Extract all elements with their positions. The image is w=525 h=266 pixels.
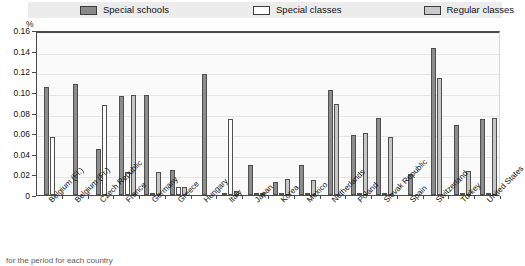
x-axis-tick-mark [474,196,475,199]
x-axis-tick-mark [268,196,269,199]
x-axis-tick-mark [242,196,243,199]
bar-group [321,33,347,195]
x-axis-tick-mark [371,196,372,199]
x-axis-tick-mark [294,196,295,199]
bar [202,74,207,195]
legend-label-special-schools: Special schools [103,5,169,15]
x-axis-tick-mark [448,196,449,199]
bar-group [217,33,243,195]
bar [431,48,436,195]
bar [44,87,49,195]
y-axis-tick-label: 0.04 [0,150,30,160]
x-axis-tick-mark [88,196,89,199]
y-axis-tick-label: 0.10 [0,88,30,98]
x-axis-tick-mark [139,196,140,199]
bar [437,78,442,195]
bar-group [424,33,450,195]
x-axis-tick-mark [62,196,63,199]
legend-item-special-schools: Special schools [80,5,169,15]
x-axis-tick-mark [216,196,217,199]
figure-caption: for the period for each country [6,256,476,266]
legend-label-special-classes: Special classes [276,5,341,15]
x-axis-tick-mark [191,196,192,199]
y-axis-tick-label: 0.16 [0,26,30,36]
y-axis-tick-label: 0.08 [0,109,30,119]
bar [299,165,304,195]
x-axis-tick-mark [345,196,346,199]
y-axis-tick-label: 0.12 [0,67,30,77]
legend-swatch-special-classes [253,6,270,15]
bar [328,90,333,195]
legend-swatch-regular-classes [424,6,441,15]
chart-legend: Special schools Special classes Regular … [28,2,502,18]
x-axis-tick-mark [423,196,424,199]
x-axis-tick-mark [397,196,398,199]
legend-item-regular-classes: Regular classes [424,5,515,15]
bar-group [475,33,501,195]
bar [222,193,227,195]
bar-group [166,33,192,195]
y-axis-tick-label: 0.06 [0,129,30,139]
bar [480,119,485,195]
bar-group [192,33,218,195]
bar-group [140,33,166,195]
y-axis-tick-label: 0.14 [0,47,30,57]
x-axis-tick-mark [320,196,321,199]
bar [131,95,136,195]
bar-group [295,33,321,195]
x-axis-tick-mark [165,196,166,199]
x-axis-tick-mark [113,196,114,199]
bar-group [269,33,295,195]
bar-group [372,33,398,195]
legend-swatch-special-schools [80,6,97,15]
bar-group [243,33,269,195]
bar-group [37,33,63,195]
bar [492,118,497,195]
bar [50,137,55,195]
bar [102,105,107,195]
bar [144,95,149,195]
x-axis-labels: Belgium (Fl.)Belgium (Fr.)Czech Republic… [36,196,500,254]
legend-label-regular-classes: Regular classes [447,5,515,15]
bar [334,104,339,195]
y-axis-tick-label: 0.02 [0,170,30,180]
bar [248,165,253,195]
y-axis-tick-label: 0 [0,191,30,201]
legend-item-special-classes: Special classes [253,5,341,15]
x-axis-tick-mark [500,196,501,199]
